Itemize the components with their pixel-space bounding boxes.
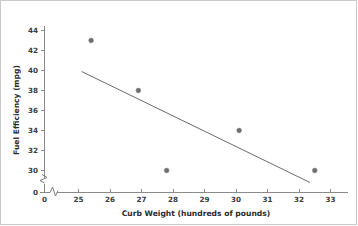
x-tick-label-zero: 0 bbox=[42, 195, 47, 204]
x-tick-label: 32 bbox=[294, 195, 304, 204]
data-point bbox=[164, 168, 169, 173]
y-axis-title: Fuel Efficiency (mpg) bbox=[12, 65, 21, 155]
y-tick-label: 30 bbox=[28, 166, 38, 175]
y-tick-label: 34 bbox=[28, 126, 38, 135]
plot-canvas: 44 42 40 38 36 34 32 30 0 Fuel Efficienc… bbox=[0, 0, 358, 226]
y-axis-break-icon bbox=[40, 175, 47, 184]
y-axis bbox=[40, 26, 47, 193]
x-tick-label: 31 bbox=[262, 195, 272, 204]
scatter-plot-figure: 44 42 40 38 36 34 32 30 0 Fuel Efficienc… bbox=[0, 0, 358, 226]
x-axis-break-icon bbox=[50, 187, 58, 196]
data-point bbox=[89, 38, 94, 43]
x-tick-label: 29 bbox=[199, 195, 209, 204]
y-axis-tick-marks bbox=[41, 31, 45, 193]
y-tick-label: 40 bbox=[28, 66, 38, 75]
data-point bbox=[237, 128, 242, 133]
x-tick-label: 26 bbox=[105, 195, 115, 204]
x-tick-label: 28 bbox=[168, 195, 178, 204]
x-axis-tick-marks bbox=[45, 189, 331, 193]
data-point bbox=[136, 88, 141, 93]
x-tick-label: 25 bbox=[73, 195, 83, 204]
y-tick-label: 38 bbox=[28, 86, 38, 95]
data-points-group bbox=[89, 38, 317, 173]
y-axis-tick-labels: 44 42 40 38 36 34 32 30 0 bbox=[28, 26, 38, 197]
data-point bbox=[312, 168, 317, 173]
x-axis-tick-labels: 0 25 26 27 28 29 30 31 32 33 bbox=[42, 195, 336, 204]
y-tick-label-zero: 0 bbox=[33, 188, 38, 197]
trend-line bbox=[82, 72, 310, 183]
x-tick-label: 30 bbox=[231, 195, 241, 204]
y-tick-label: 42 bbox=[28, 46, 38, 55]
y-tick-label: 44 bbox=[28, 26, 38, 35]
y-tick-label: 36 bbox=[28, 106, 38, 115]
x-axis-title: Curb Weight (hundreds of pounds) bbox=[122, 209, 270, 218]
y-tick-label: 32 bbox=[28, 146, 38, 155]
x-tick-label: 27 bbox=[136, 195, 146, 204]
x-tick-label: 33 bbox=[325, 195, 335, 204]
